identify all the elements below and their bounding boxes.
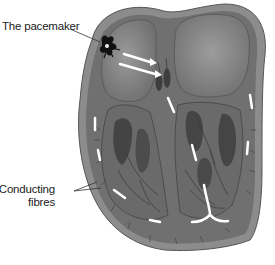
left-atrium bbox=[174, 14, 249, 97]
conducting-fibres-label-line1: Conducting bbox=[0, 183, 55, 196]
av-node-right bbox=[164, 68, 171, 88]
conducting-fibres-label: Conducting fibres bbox=[0, 183, 55, 209]
heart-diagram bbox=[0, 0, 275, 265]
pacemaker-label: The pacemaker bbox=[2, 20, 79, 33]
conducting-fibres-label-line2: fibres bbox=[0, 196, 55, 209]
